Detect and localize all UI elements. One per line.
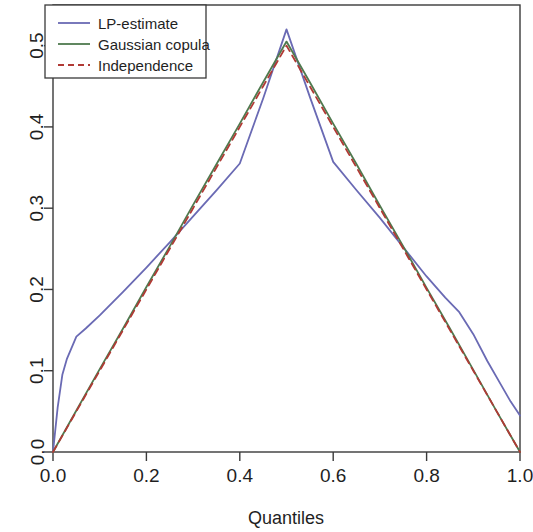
- y-axis-tick-label: 0.1: [27, 358, 48, 384]
- x-axis-tick-label: 0.4: [227, 465, 254, 486]
- legend-label: Independence: [98, 57, 193, 74]
- chart-legend: LP-estimateGaussian copulaIndependence: [45, 5, 210, 78]
- y-axis-tick-label: 0.2: [27, 276, 48, 302]
- y-axis-tick-label: 0.3: [27, 195, 48, 221]
- x-axis-tick-label: 0.0: [40, 465, 66, 486]
- x-axis-tick-label: 0.2: [133, 465, 159, 486]
- plot-figure: 0.00.10.20.30.40.5 0.00.20.40.60.81.0 Qu…: [0, 0, 533, 532]
- y-axis-tick-label: 0.4: [27, 113, 48, 140]
- x-axis-tick-label: 1.0: [507, 465, 533, 486]
- x-axis-tick-label: 0.6: [320, 465, 346, 486]
- x-axis-title: Quantiles: [248, 508, 324, 528]
- legend-label: LP-estimate: [98, 15, 178, 32]
- y-axis-tick-label: 0.0: [27, 439, 48, 465]
- x-axis-tick-label: 0.8: [413, 465, 439, 486]
- legend-label: Gaussian copula: [98, 36, 210, 53]
